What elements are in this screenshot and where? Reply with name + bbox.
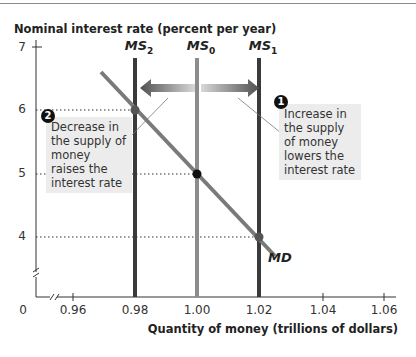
y-tick-6: 6 — [12, 102, 26, 116]
ms2-label: MS2 — [125, 38, 154, 56]
x-axis — [36, 293, 396, 301]
y-tick-4: 4 — [12, 229, 26, 243]
point-ms2-md — [131, 106, 140, 115]
x-tick-104: 1.04 — [310, 303, 337, 317]
x-axis-label: Quantity of money (trillions of dollars) — [148, 322, 398, 336]
y-axis — [32, 40, 42, 297]
ms1-label: MS1 — [249, 38, 278, 56]
shift-arrows — [140, 79, 259, 97]
annotation-badge-1: 1 — [274, 95, 288, 109]
annotation-badge-2: 2 — [41, 109, 55, 123]
x-tick-100: 1.00 — [184, 303, 211, 317]
x-tick-098: 0.98 — [122, 303, 149, 317]
y-axis-label: Nominal interest rate (percent per year) — [14, 22, 276, 36]
x-tick-096: 0.96 — [60, 303, 87, 317]
y-tick-5: 5 — [12, 166, 26, 180]
md-label: MD — [268, 250, 292, 265]
y-tick-7: 7 — [12, 40, 26, 54]
annotation-increase: Increase in the supply of money lowers t… — [279, 104, 361, 180]
x-tick-0: 0 — [19, 303, 27, 317]
point-ms0-md — [193, 170, 202, 179]
x-tick-106: 1.06 — [371, 303, 398, 317]
ms0-label: MS0 — [187, 38, 216, 56]
x-tick-102: 1.02 — [246, 303, 273, 317]
point-ms1-md — [255, 233, 264, 242]
annotation-decrease: Decrease in the supply of money raises t… — [46, 117, 132, 193]
